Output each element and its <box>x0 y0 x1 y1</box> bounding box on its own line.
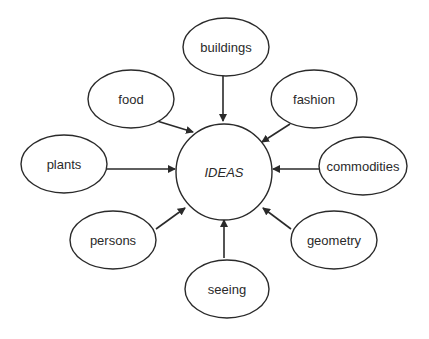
node-food: food <box>88 70 174 128</box>
node-buildings: buildings <box>183 18 269 76</box>
node-label: food <box>118 92 143 107</box>
node-label: seeing <box>208 282 246 297</box>
node-commodities: commodities <box>319 137 407 195</box>
center-label: IDEAS <box>204 165 243 180</box>
arrow-food-to-ideas <box>157 121 193 132</box>
node-label: commodities <box>327 159 400 174</box>
node-seeing: seeing <box>185 260 269 318</box>
arrow-geometry-to-ideas <box>263 208 291 229</box>
node-label: plants <box>47 157 82 172</box>
node-label: buildings <box>200 40 252 55</box>
concept-diagram: buildingsfoodfashionplantscommoditiesper… <box>0 0 429 339</box>
node-label: fashion <box>293 92 335 107</box>
node-geometry: geometry <box>291 211 377 269</box>
node-label: geometry <box>307 233 362 248</box>
node-label: persons <box>90 233 137 248</box>
node-persons: persons <box>70 211 156 269</box>
arrow-persons-to-ideas <box>156 208 185 229</box>
node-fashion: fashion <box>271 70 357 128</box>
arrow-fashion-to-ideas <box>262 124 290 142</box>
center-node-ideas: IDEAS <box>176 124 272 220</box>
node-plants: plants <box>21 135 107 193</box>
